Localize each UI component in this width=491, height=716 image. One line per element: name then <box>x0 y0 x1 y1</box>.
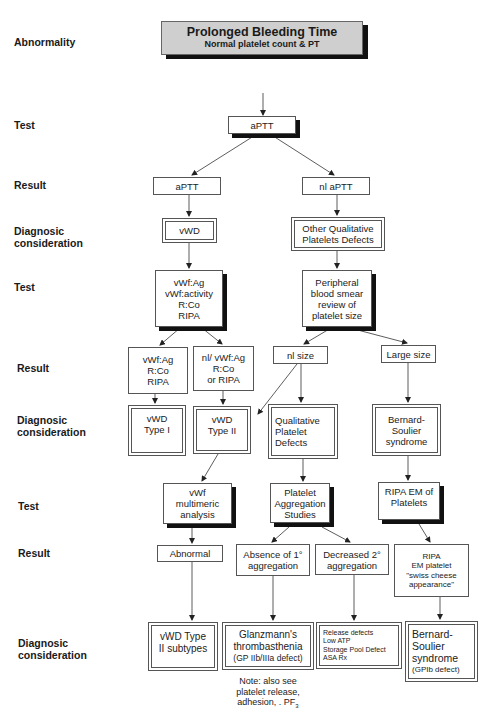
node-line: R:Co <box>178 299 200 310</box>
node-result-ripa-em-swiss-cheese: RIPA EM platelet "swiss cheese appearanc… <box>394 544 469 597</box>
node-line: Platelet <box>284 487 316 498</box>
node-line: Absence of 1° <box>243 549 302 560</box>
node-line: vWD <box>147 413 168 424</box>
row-label-test: Test <box>14 281 35 293</box>
node-line: blood smear <box>311 288 363 299</box>
node-diag-vwd-type2: vWD Type II <box>193 406 251 454</box>
node-test-blood-smear: Peripheral blood smear review of platele… <box>302 270 372 327</box>
node-inner: vWD Type II subtypes <box>151 625 215 668</box>
node-line: R:Co <box>213 363 235 374</box>
note-line: platelet release, <box>228 687 308 698</box>
row-label-diagnostic-consideration: Diagnosic consideration <box>18 637 87 661</box>
node-line: (GPIb defect) <box>412 664 460 675</box>
node-line: aggregation <box>327 560 377 571</box>
node-inner: vWD Type I <box>131 408 183 453</box>
node-result-decreased-secondary: Decreased 2° aggregation <box>315 544 389 575</box>
abnormality-title-box: Prolonged Bleeding Time Normal platelet … <box>161 21 363 55</box>
node-result-vwf-low: vWf:Ag R:Co RIPA <box>128 347 188 394</box>
row-label-test: Test <box>14 119 35 131</box>
note-text: adhesion, . PF <box>237 697 295 707</box>
node-diag-vwd-type2-subtypes: vWD Type II subtypes <box>148 622 218 671</box>
node-line: R:Co <box>147 365 169 376</box>
node-line: Defects <box>275 437 307 448</box>
node-line: Soulier <box>392 425 422 436</box>
row-label-result: Result <box>14 179 46 191</box>
node-result-absence-primary: Absence of 1° aggregation <box>236 544 310 576</box>
node-line: (GP IIb/IIIa defect) <box>233 653 302 664</box>
node-line: multimeric <box>176 498 219 509</box>
node-line: platelet size <box>312 310 362 321</box>
row-label-line: Diagnosic <box>18 637 87 649</box>
node-line: or RIPA <box>207 374 240 385</box>
node-line: vWf <box>189 487 205 498</box>
node-line: syndrome <box>386 436 428 447</box>
node-line: vWD <box>212 414 233 425</box>
node-line: vWD Type <box>160 631 206 643</box>
node-test-ripa-em: RIPA EM of Platelets <box>378 482 440 520</box>
node-line: Low ATP <box>323 637 351 646</box>
row-label-result: Result <box>18 547 50 559</box>
node-line: Storage Pool Defect <box>323 646 386 655</box>
node-line: Type I <box>144 424 170 435</box>
node-test-platelet-aggregation: Platelet Aggregation Studies <box>270 483 330 523</box>
node-inner: Other Qualitative Platelets Defects <box>294 220 382 248</box>
node-line: Glanzmann's <box>239 629 297 641</box>
node-result-large-size: Large size <box>381 345 436 363</box>
node-line: vWf:activity <box>165 288 213 299</box>
node-line: appearance" <box>409 580 454 590</box>
node-diag-qualitative-platelet-defects: Qualitative Platelet Defects <box>268 404 338 459</box>
node-line: Bernard- <box>412 628 453 640</box>
node-result-nl-aptt: nl aPTT <box>302 177 370 195</box>
node-line: ASA Rx <box>323 654 347 663</box>
node-line: II subtypes <box>159 643 207 655</box>
node-line: Release defects <box>323 629 373 638</box>
node-test-vwf-multimeric: vWf multimeric analysis <box>163 483 232 524</box>
title-main: Prolonged Bleeding Time <box>162 25 362 39</box>
node-line: Decreased 2° <box>323 549 381 560</box>
node-line: analysis <box>180 509 214 520</box>
glanzmann-note: Note: also see platelet release, adhesio… <box>228 676 308 711</box>
row-label-abnormality: Abnormality <box>14 36 75 48</box>
row-label-line: Diagnosic <box>17 414 86 426</box>
node-line: Aggregation <box>274 498 325 509</box>
node-line: review of <box>318 299 356 310</box>
node-inner: Qualitative Platelet Defects <box>271 407 335 456</box>
node-line: Qualitative <box>275 415 320 426</box>
note-line: Note: also see <box>228 676 308 687</box>
node-line: vWf:Ag <box>174 277 205 288</box>
node-line: vWf:Ag <box>143 354 174 365</box>
row-label-diagnostic-consideration: Diagnosic consideration <box>14 225 83 249</box>
node-diag-vwd: vWD <box>162 218 217 243</box>
row-label-line: consideration <box>18 649 87 661</box>
node-line: EM platelet <box>411 561 451 571</box>
node-result-abnormal: Abnormal <box>157 545 223 562</box>
node-line: RIPA EM of <box>385 486 433 497</box>
node-diag-vwd-type1: vWD Type I <box>128 405 186 456</box>
row-label-line: consideration <box>17 426 86 438</box>
node-diag-glanzmann: Glanzmann's thrombasthenia (GP IIb/IIIa … <box>222 622 314 670</box>
row-label-result: Result <box>17 362 49 374</box>
node-diag-vwd-label: vWD <box>165 221 214 240</box>
node-line: Peripheral <box>315 277 358 288</box>
node-line: thrombasthenia <box>234 641 303 653</box>
node-result-aptt: aPTT <box>153 177 221 195</box>
node-line: RIPA <box>422 552 440 562</box>
note-subscript: 3 <box>295 703 298 709</box>
node-line: Type II <box>208 425 237 436</box>
node-line: Bernard- <box>388 414 425 425</box>
node-line: Platelet <box>275 426 307 437</box>
node-line: RIPA <box>178 310 199 321</box>
node-line: nl/ vWf:Ag <box>202 352 245 363</box>
node-line: "swiss cheese <box>406 571 456 581</box>
node-diag-bernard-soulier-gpib: Bernard- Soulier syndrome (GPIb defect) <box>405 621 478 682</box>
row-label-line: consideration <box>14 237 83 249</box>
node-inner: Bernard- Soulier syndrome (GPIb defect) <box>408 624 475 679</box>
node-diag-bernard-soulier: Bernard- Soulier syndrome <box>372 404 441 456</box>
node-inner: Release defects Low ATP Storage Pool Def… <box>319 625 399 666</box>
node-diag-other-qualitative: Other Qualitative Platelets Defects <box>291 217 385 251</box>
node-inner: vWD Type II <box>196 409 248 451</box>
node-line: syndrome <box>412 652 458 664</box>
node-line: Platelets Defects <box>302 234 373 245</box>
node-result-vwf-normal: nl/ vWf:Ag R:Co or RIPA <box>193 346 254 391</box>
node-line: Other Qualitative <box>302 223 373 234</box>
